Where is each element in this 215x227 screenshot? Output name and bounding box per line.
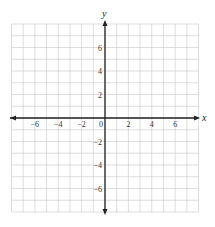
y-tick-label: 6 xyxy=(98,44,102,53)
x-tick-labels: −6−4−20246 xyxy=(31,120,178,129)
y-tick-label: −2 xyxy=(93,138,102,147)
x-tick-label: −4 xyxy=(54,120,63,129)
x-axis-left-arrow-icon xyxy=(10,116,16,121)
y-tick-label: 2 xyxy=(98,91,102,100)
x-tick-label: −2 xyxy=(77,120,86,129)
x-tick-label: 6 xyxy=(173,120,177,129)
x-tick-label: 2 xyxy=(126,120,130,129)
x-axis-right-arrow-icon xyxy=(194,116,200,121)
y-tick-label: −4 xyxy=(93,161,102,170)
x-axis-label: x xyxy=(201,112,207,123)
axes xyxy=(10,20,200,215)
y-tick-label: −6 xyxy=(93,185,102,194)
y-axis-up-arrow-icon xyxy=(103,20,108,26)
y-axis-label: y xyxy=(101,8,107,19)
y-tick-label: 4 xyxy=(98,67,102,76)
coordinate-plane: x y −6−4−20246 642−2−4−6 xyxy=(0,0,215,227)
x-tick-label: 4 xyxy=(150,120,154,129)
x-tick-label: −6 xyxy=(31,120,40,129)
x-tick-label: 0 xyxy=(99,120,103,129)
